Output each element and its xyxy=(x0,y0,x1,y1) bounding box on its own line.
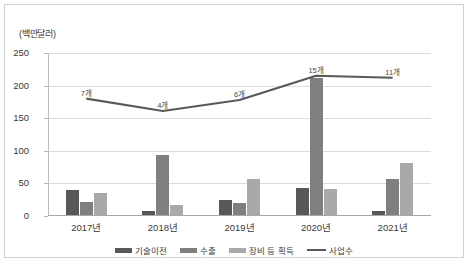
legend-label: 수출 xyxy=(200,244,216,256)
y-axis-tick: 200 xyxy=(0,81,29,91)
line-series-sales-count xyxy=(48,53,431,216)
line-point-label: 6개 xyxy=(234,88,245,99)
line-point-label: 15개 xyxy=(308,64,323,75)
legend-swatch-icon xyxy=(115,248,132,253)
y-axis-tick: 100 xyxy=(0,146,29,156)
y-axis-tick: 50 xyxy=(0,178,29,188)
x-axis-tick-2017년: 2017년 xyxy=(71,220,101,234)
legend-swatch-icon xyxy=(229,248,246,253)
y-axis-tick: 150 xyxy=(0,113,29,123)
y-axis-tick: 0 xyxy=(0,211,29,221)
legend-swatch-icon xyxy=(180,248,197,253)
y-axis-tick-mark xyxy=(44,216,48,217)
line-point-label: 7개 xyxy=(81,87,92,98)
legend-item-수출[interactable]: 수출 xyxy=(180,244,216,256)
y-axis-tick: 250 xyxy=(0,48,29,58)
legend-label: 사업수 xyxy=(329,244,353,256)
legend-label: 장비 등 획득 xyxy=(249,244,294,256)
x-axis-tick-2019년: 2019년 xyxy=(224,220,254,234)
y-axis-unit-label: (백만달러) xyxy=(19,27,56,40)
legend-item-사업수[interactable]: 사업수 xyxy=(307,244,353,256)
legend-item-기술이전[interactable]: 기술이전 xyxy=(115,244,167,256)
line-point-label: 11개 xyxy=(385,66,400,77)
chart-frame: (백만달러) 050100150200250 7개4개6개15개11개 2017… xyxy=(4,4,464,258)
plot-area xyxy=(48,53,431,216)
x-axis-line xyxy=(48,215,431,216)
line-point-label: 4개 xyxy=(157,99,168,110)
x-axis-tick-2020년: 2020년 xyxy=(301,220,331,234)
x-axis-tick-2021년: 2021년 xyxy=(378,220,408,234)
legend-item-장비 등 획득[interactable]: 장비 등 획득 xyxy=(229,244,294,256)
x-axis-tick-2018년: 2018년 xyxy=(148,220,178,234)
legend-swatch-icon xyxy=(307,249,326,251)
chart-legend: 기술이전수출장비 등 획득사업수 xyxy=(5,244,463,256)
legend-label: 기술이전 xyxy=(135,244,167,256)
